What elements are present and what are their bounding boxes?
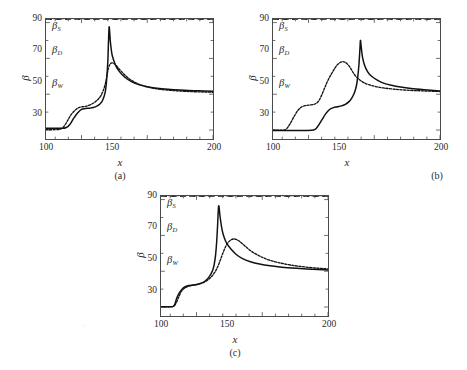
- ytick-a-90: 90: [18, 14, 42, 24]
- plot-canvas-a: [46, 19, 213, 139]
- plot-area-a: [45, 18, 214, 140]
- beta-s-label-b: βS: [279, 21, 287, 32]
- xaxis-label-c: x: [225, 333, 245, 345]
- plot-canvas-b: [273, 19, 440, 139]
- yaxis-label-c: β: [134, 246, 146, 264]
- panel-caption-c: (c): [220, 347, 250, 358]
- beta-s-label-a: βS: [52, 21, 60, 32]
- ytick-b-30: 30: [245, 109, 269, 119]
- plot-canvas-c: [161, 196, 328, 316]
- beta-s-label-c: βS: [167, 198, 175, 209]
- xtick-b-200: 200: [417, 143, 465, 153]
- yaxis-label-b: β: [246, 69, 258, 87]
- ytick-c-70: 70: [133, 222, 157, 232]
- xtick-a-100: 100: [22, 143, 70, 153]
- yaxis-label-a: β: [19, 69, 31, 87]
- ytick-c-30: 30: [133, 286, 157, 296]
- xtick-c-200: 200: [305, 320, 353, 330]
- beta-w-label-b: βW: [279, 78, 290, 89]
- panel-a: βS βD βW 90 70 50 30 100 150 200 β x (a): [0, 0, 232, 185]
- xaxis-label-a: x: [110, 156, 130, 168]
- beta-w-label-c: βW: [167, 255, 178, 266]
- beta-d-label-c: βD: [167, 222, 177, 233]
- ytick-a-30: 30: [18, 109, 42, 119]
- panel-b: βS βD βW 90 70 50 30 100 150 200 β x (b): [227, 0, 467, 185]
- ytick-a-70: 70: [18, 45, 42, 55]
- ytick-b-70: 70: [245, 45, 269, 55]
- xtick-b-100: 100: [249, 143, 297, 153]
- xaxis-label-b: x: [337, 156, 357, 168]
- panel-caption-b: (b): [422, 170, 452, 181]
- figure-root: βS βD βW 90 70 50 30 100 150 200 β x (a)…: [0, 0, 467, 370]
- xtick-c-100: 100: [137, 320, 185, 330]
- beta-d-label-a: βD: [52, 45, 62, 56]
- ytick-c-90: 90: [133, 191, 157, 201]
- xtick-c-150: 150: [203, 320, 251, 330]
- plot-area-b: [272, 18, 441, 140]
- beta-w-label-a: βW: [52, 78, 63, 89]
- panel-c: βS βD βW 90 70 50 30 100 150 200 β x (c): [115, 177, 355, 370]
- xtick-a-150: 150: [88, 143, 136, 153]
- plot-area-c: [160, 195, 329, 317]
- beta-d-label-b: βD: [279, 45, 289, 56]
- xtick-b-150: 150: [315, 143, 363, 153]
- ytick-b-90: 90: [245, 14, 269, 24]
